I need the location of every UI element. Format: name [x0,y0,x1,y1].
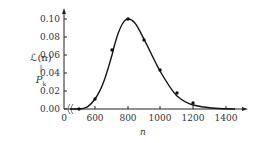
svg-text:1400: 1400 [215,113,238,123]
y-axis-arrow-icon [62,8,66,14]
svg-text:0.00: 0.00 [40,104,60,114]
svg-text:1200: 1200 [182,113,205,123]
chart-canvas: 0.00 0.02 0.04 0.06 0.08 0.10 0 600 800 … [0,0,257,143]
svg-text:0: 0 [61,113,67,123]
svg-text:0.06: 0.06 [40,50,60,60]
svg-text:600: 600 [86,113,103,123]
svg-text:0.08: 0.08 [40,32,60,42]
x-axis-label: n [140,127,146,137]
svg-text:0.10: 0.10 [40,14,60,24]
x-axis-arrow-icon [242,107,248,111]
svg-text:0.02: 0.02 [40,86,60,96]
series-curve [70,19,235,109]
y-ticks: 0.00 0.02 0.04 0.06 0.08 0.10 [40,14,67,114]
svg-text:0.04: 0.04 [40,68,60,78]
svg-text:1000: 1000 [149,113,172,123]
svg-text:800: 800 [119,113,136,123]
